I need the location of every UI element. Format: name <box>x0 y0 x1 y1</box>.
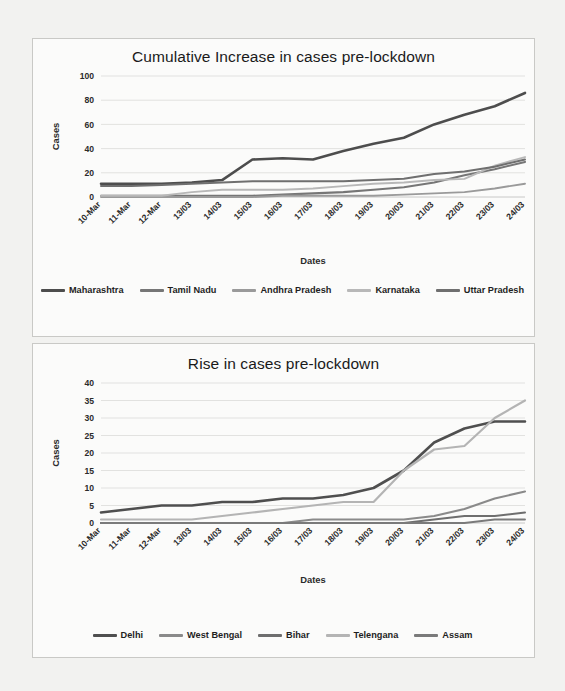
x-axis-tick-label: 21/03 <box>413 525 435 547</box>
legend-color-swatch-icon <box>436 289 460 292</box>
chart-title: Rise in cases pre-lockdown <box>33 344 534 373</box>
chart-plot-cumulative-increase: 020406080100Cases10-Mar11-Mar12-Mar13/03… <box>33 66 534 271</box>
x-axis-tick-label: 18/03 <box>322 525 344 547</box>
x-axis-tick-label: 12-Mar <box>136 199 163 226</box>
legend-item-label: Karnataka <box>375 286 419 295</box>
chart-legend-rise-in-cases: DelhiWest BengalBiharTelenganaAssam <box>0 631 565 640</box>
legend-color-swatch-icon <box>140 289 164 292</box>
x-axis-tick-label: 19/03 <box>353 525 375 547</box>
y-axis-title: Cases <box>50 123 61 151</box>
y-axis-tick-label: 15 <box>84 466 94 476</box>
x-axis-tick-label: 17/03 <box>292 525 314 547</box>
y-axis-tick-label: 40 <box>84 378 94 388</box>
x-axis-title: Dates <box>300 255 326 266</box>
x-axis-tick-label: 17/03 <box>292 199 314 221</box>
x-axis-tick-label: 13/03 <box>171 525 193 547</box>
chart-plot-rise-in-cases: 0510152025303540Cases10-Mar11-Mar12-Mar1… <box>33 373 534 588</box>
x-axis-tick-label: 12-Mar <box>136 525 163 552</box>
x-axis-tick-label: 24/03 <box>504 525 526 547</box>
x-axis-tick-label: 11-Mar <box>106 525 133 552</box>
x-axis-tick-label: 20/03 <box>383 525 405 547</box>
legend-color-swatch-icon <box>232 289 256 292</box>
x-axis-tick-label: 16/03 <box>262 525 284 547</box>
legend-color-swatch-icon <box>41 289 65 292</box>
x-axis-tick-label: 22/03 <box>444 525 466 547</box>
legend-color-swatch-icon <box>414 634 438 637</box>
legend-item-label: Maharashtra <box>69 286 124 295</box>
x-axis-tick-label: 14/03 <box>201 199 223 221</box>
legend-item[interactable]: Andhra Pradesh <box>232 286 331 295</box>
x-axis-tick-label: 18/03 <box>322 199 344 221</box>
legend-item[interactable]: Karnataka <box>347 286 419 295</box>
legend-color-swatch-icon <box>326 634 350 637</box>
y-axis-tick-label: 25 <box>84 431 94 441</box>
y-axis-tick-label: 5 <box>89 501 94 511</box>
legend-item[interactable]: Telengana <box>326 631 399 640</box>
legend-item-label: West Bengal <box>187 631 242 640</box>
series-line <box>101 93 525 184</box>
legend-item[interactable]: Tamil Nadu <box>140 286 217 295</box>
y-axis-tick-label: 20 <box>84 448 94 458</box>
chart-panel-rise-in-cases: Rise in cases pre-lockdown 0510152025303… <box>32 343 535 658</box>
x-axis-tick-label: 20/03 <box>383 199 405 221</box>
x-axis-tick-label: 16/03 <box>262 199 284 221</box>
y-axis-tick-label: 80 <box>84 95 94 105</box>
legend-item[interactable]: Uttar Pradesh <box>436 286 524 295</box>
legend-item-label: Tamil Nadu <box>168 286 217 295</box>
legend-item[interactable]: Delhi <box>93 631 143 640</box>
series-line <box>101 422 525 513</box>
x-axis-tick-label: 10-Mar <box>76 199 103 226</box>
y-axis-tick-label: 30 <box>84 413 94 423</box>
x-axis-tick-label: 22/03 <box>444 199 466 221</box>
x-axis-tick-label: 11-Mar <box>106 199 133 226</box>
legend-item-label: Delhi <box>121 631 143 640</box>
legend-item[interactable]: Assam <box>414 631 472 640</box>
y-axis-tick-label: 40 <box>84 144 94 154</box>
legend-color-swatch-icon <box>258 634 282 637</box>
x-axis-tick-label: 21/03 <box>413 199 435 221</box>
chart-legend-cumulative-increase: MaharashtraTamil NaduAndhra PradeshKarna… <box>0 286 565 295</box>
legend-color-swatch-icon <box>93 634 117 637</box>
legend-item[interactable]: West Bengal <box>159 631 242 640</box>
legend-item-label: Uttar Pradesh <box>464 286 524 295</box>
legend-item-label: Andhra Pradesh <box>260 286 331 295</box>
legend-item-label: Bihar <box>286 631 310 640</box>
legend-item-label: Assam <box>442 631 472 640</box>
chart-title: Cumulative Increase in cases pre-lockdow… <box>33 39 534 66</box>
legend-item[interactable]: Maharashtra <box>41 286 124 295</box>
x-axis-tick-label: 13/03 <box>171 199 193 221</box>
legend-item-label: Telengana <box>354 631 399 640</box>
series-line <box>101 401 525 520</box>
x-axis-tick-label: 14/03 <box>201 525 223 547</box>
series-line <box>101 513 525 524</box>
x-axis-tick-label: 10-Mar <box>76 525 103 552</box>
y-axis-tick-label: 20 <box>84 168 94 178</box>
x-axis-tick-label: 23/03 <box>474 199 496 221</box>
y-axis-tick-label: 100 <box>80 71 95 81</box>
series-line <box>101 492 525 524</box>
y-axis-title: Cases <box>50 439 61 467</box>
x-axis-tick-label: 19/03 <box>353 199 375 221</box>
x-axis-tick-label: 15/03 <box>232 525 254 547</box>
y-axis-tick-label: 60 <box>84 120 94 130</box>
legend-item[interactable]: Bihar <box>258 631 310 640</box>
x-axis-title: Dates <box>300 574 326 585</box>
legend-color-swatch-icon <box>347 289 371 292</box>
legend-color-swatch-icon <box>159 634 183 637</box>
x-axis-tick-label: 15/03 <box>232 199 254 221</box>
y-axis-tick-label: 10 <box>84 483 94 493</box>
x-axis-tick-label: 23/03 <box>474 525 496 547</box>
x-axis-tick-label: 24/03 <box>504 199 526 221</box>
y-axis-tick-label: 35 <box>84 396 94 406</box>
